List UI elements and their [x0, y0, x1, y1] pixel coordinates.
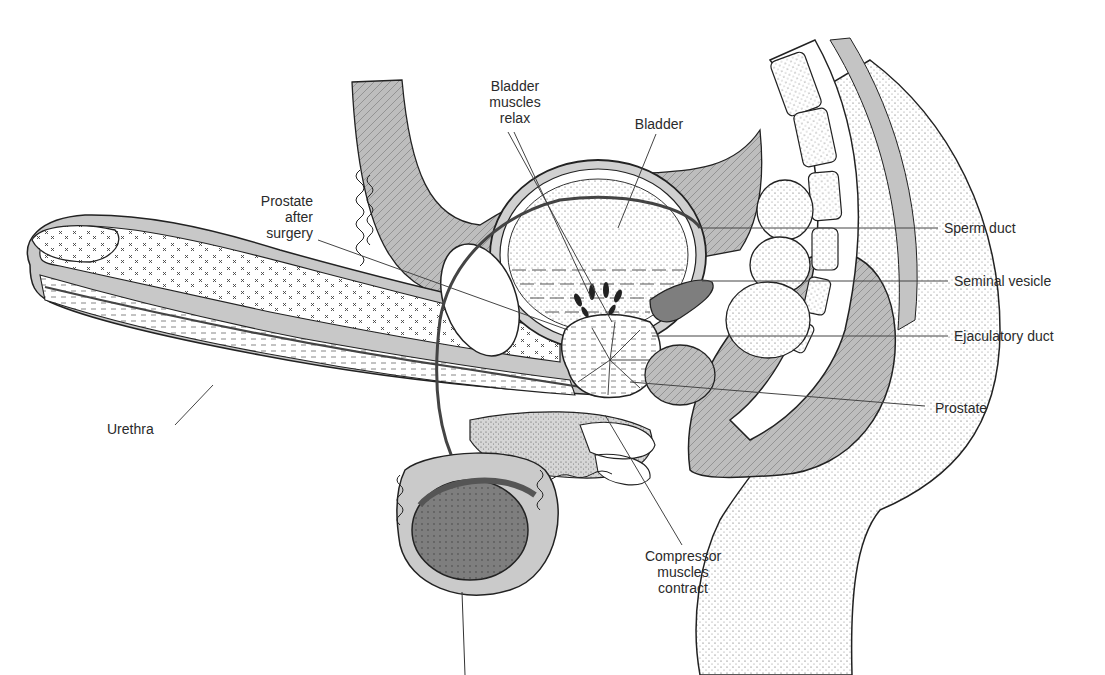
rectal-muscle: [645, 345, 715, 405]
label-prostate-after-surgery: Prostate after surgery: [218, 193, 313, 241]
label-compressor-muscles-contract: Compressor muscles contract: [628, 548, 738, 596]
label-bladder: Bladder: [624, 116, 694, 132]
label-bladder-muscles-relax: Bladder muscles relax: [470, 78, 560, 126]
label-seminal-vesicle: Seminal vesicle: [954, 273, 1104, 289]
label-urethra: Urethra: [107, 421, 177, 437]
leader-line-urethra: [175, 385, 213, 425]
colon-loop-1: [757, 180, 813, 240]
scrotal-septum: [462, 592, 465, 675]
label-sperm-duct: Sperm duct: [944, 220, 1064, 236]
label-ejaculatory-duct: Ejaculatory duct: [954, 328, 1104, 344]
prostate-gland: [562, 314, 661, 397]
label-prostate: Prostate: [935, 400, 1025, 416]
anatomy-diagram: Bladder muscles relax Bladder Prostate a…: [0, 0, 1105, 675]
colon-loop-3: [726, 282, 810, 358]
